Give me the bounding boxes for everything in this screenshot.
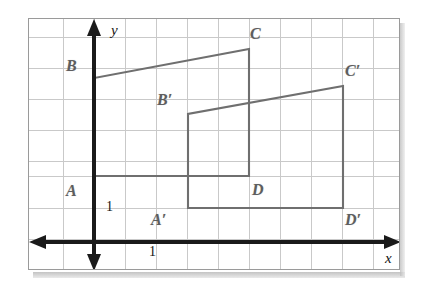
y-axis-label: y [111,23,118,38]
y-axis-unit-label: 1 [106,200,113,214]
x-axis [29,235,400,249]
y-axis-arrow-up [87,19,101,36]
vertex-label-C: C [250,26,261,42]
vertex-label-D-prime: D′ [345,212,361,228]
vertex-label-C-prime: C′ [345,63,360,79]
axes [29,19,400,270]
x-axis-label: x [385,251,392,266]
vertex-label-A: A [66,183,77,199]
vertex-label-B: B [66,58,77,74]
figure-drop-shadow-bottom [33,272,405,278]
vertex-label-B-prime: B′ [157,92,172,108]
x-axis-arrow-left [29,235,46,249]
vertex-label-D: D [252,182,264,198]
coordinate-plane [28,18,400,270]
figure-drop-shadow-right [400,23,405,276]
figure-root: A B C D A′ B′ C′ D′ y x 1 1 [0,0,422,296]
x-axis-unit-label: 1 [149,245,156,259]
vertex-label-A-prime: A′ [151,212,166,228]
y-axis [87,19,101,270]
y-axis-arrow-down [87,254,101,270]
x-axis-arrow-right [384,235,400,249]
